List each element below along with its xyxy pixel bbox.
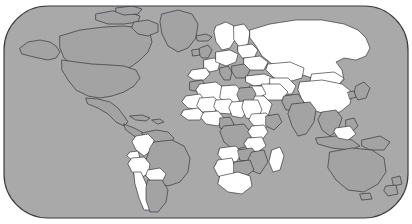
world-map-container (0, 0, 412, 224)
region-new-zealand-north (392, 176, 402, 186)
region-tasmania (360, 193, 372, 200)
region-ireland (192, 49, 200, 56)
world-map-svg (0, 0, 412, 224)
